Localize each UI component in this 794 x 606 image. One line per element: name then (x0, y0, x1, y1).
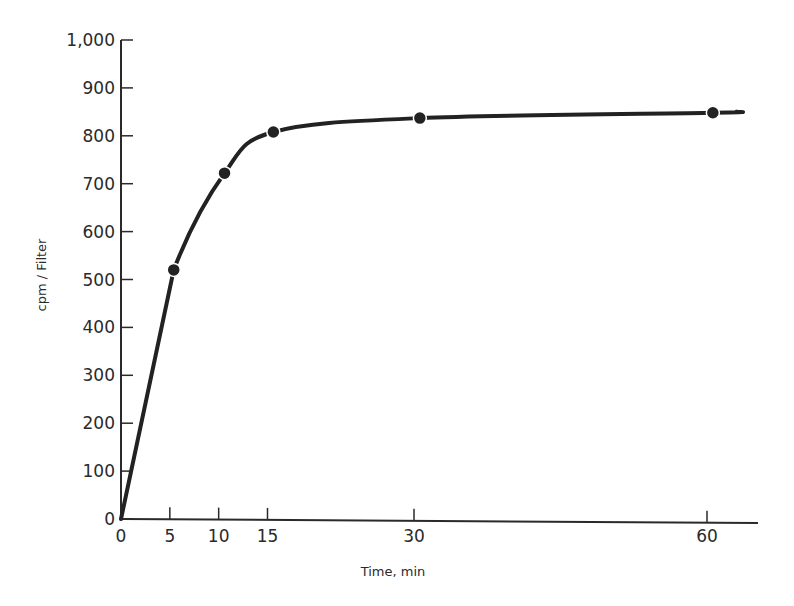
x-axis-label: Time, min (360, 564, 426, 579)
y-tick-label: 200 (83, 413, 115, 433)
x-tick-label: 60 (696, 526, 718, 546)
x-axis-line (121, 519, 758, 523)
data-point-marker (267, 125, 280, 138)
y-tick-label: 600 (83, 222, 115, 242)
y-tick-label: 0 (104, 509, 115, 529)
data-point-marker (167, 263, 180, 276)
y-tick-label: 300 (83, 365, 115, 385)
y-tick-label: 800 (83, 126, 115, 146)
y-tick-label: 500 (83, 270, 115, 290)
data-point-marker (413, 112, 426, 125)
chart: 01002003004005006007008009001,000 051015… (0, 0, 794, 606)
y-axis-label: cpm / Filter (34, 238, 49, 312)
y-tick-label: 1,000 (66, 30, 115, 50)
y-axis: 01002003004005006007008009001,000 (66, 30, 133, 529)
x-tick-label: 10 (208, 526, 230, 546)
x-axis: 0510153060 (116, 507, 758, 546)
x-tick-label: 15 (257, 526, 279, 546)
data-line (121, 112, 743, 519)
x-tick-label: 30 (403, 526, 425, 546)
y-tick-label: 700 (83, 174, 115, 194)
y-tick-label: 900 (83, 78, 115, 98)
x-tick-label: 5 (164, 526, 175, 546)
data-point-marker (706, 106, 719, 119)
y-tick-label: 400 (83, 317, 115, 337)
data-point-marker (218, 167, 231, 180)
y-tick-label: 100 (83, 461, 115, 481)
data-series (121, 106, 743, 519)
x-tick-label: 0 (116, 526, 127, 546)
